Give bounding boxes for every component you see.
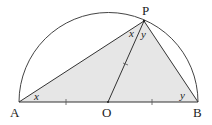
angle-label-P-left: x [128,27,134,39]
label-A: A [10,105,20,120]
angle-label-B: y [179,89,185,101]
angle-label-P-right: y [140,28,146,40]
point-O-dot [107,101,109,103]
point-P-dot [143,20,145,22]
geometry-diagram: A O B P x x y y [0,0,212,125]
label-B: B [193,105,202,120]
label-P: P [142,3,149,18]
angle-label-A: x [33,90,39,102]
label-O: O [102,105,111,120]
